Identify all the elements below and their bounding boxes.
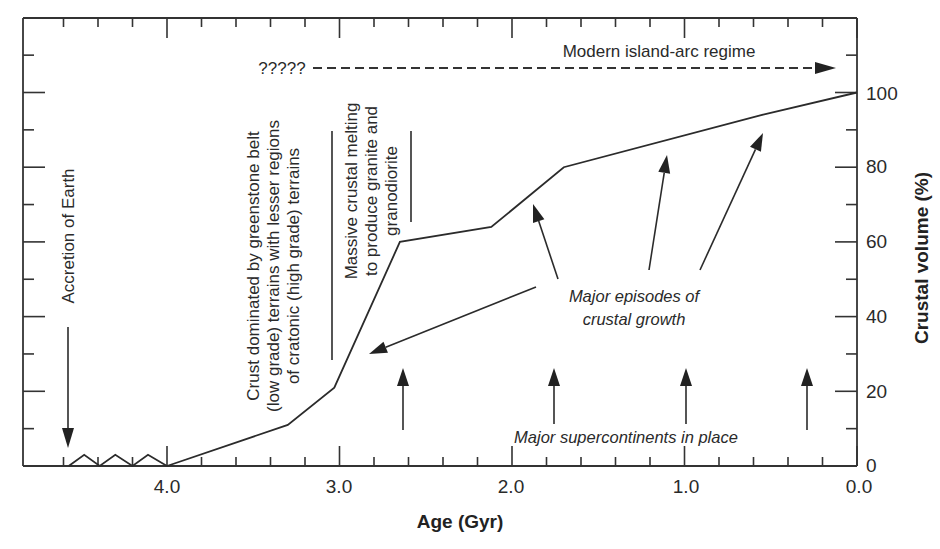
note-line: Massive crustal melting — [342, 103, 361, 280]
y-tick-labels: 0 20 40 60 80 100 — [866, 83, 898, 476]
x-tick-label: 3.0 — [326, 476, 352, 497]
supercontinents-label: Major supercontinents in place — [514, 428, 738, 446]
note-line: of cratonic (high grade) terrains — [284, 148, 303, 384]
note-line: Crust dominated by greenstone belt — [244, 131, 263, 401]
early-earth-zigzag — [69, 455, 167, 466]
crust-dominated-note: Crust dominated by greenstone belt (low … — [244, 120, 303, 412]
unknown-label: ????? — [258, 59, 305, 78]
accretion-annotation: Accretion of Earth — [59, 168, 78, 448]
x-tick-label: 2.0 — [498, 476, 524, 497]
arrow-head-icon — [658, 155, 670, 174]
axis-ticks — [23, 18, 857, 466]
growth-arrow-shaft — [539, 221, 558, 279]
x-axis-title: Age (Gyr) — [417, 511, 504, 532]
y-axis-title: Crustal volume (%) — [911, 172, 932, 344]
massive-melting-note: Massive crustal melting to produce grani… — [332, 103, 411, 360]
growth-arrow-shaft — [700, 149, 755, 270]
note-line: granodiorite — [382, 146, 401, 236]
x-tick-labels: 4.0 3.0 2.0 1.0 0.0 — [154, 476, 872, 497]
modern-regime-annotation: ????? Modern island-arc regime — [258, 42, 836, 78]
note-line: (low grade) terrains with lesser regions — [264, 120, 283, 412]
arrow-head-icon — [533, 204, 544, 223]
arrow-head-icon — [369, 342, 388, 354]
accretion-label: Accretion of Earth — [59, 168, 78, 303]
arrow-head-icon — [548, 368, 560, 386]
y-tick-label: 40 — [866, 306, 887, 327]
growth-label-line: Major episodes of — [569, 287, 702, 305]
modern-regime-label: Modern island-arc regime — [563, 42, 756, 61]
chart-canvas: 4.0 3.0 2.0 1.0 0.0 0 20 40 60 80 100 Ag… — [0, 0, 940, 549]
arrow-head-icon — [750, 133, 763, 152]
growth-arrow-shaft — [386, 287, 536, 347]
x-tick-label: 1.0 — [673, 476, 699, 497]
growth-arrow-shaft — [649, 173, 664, 270]
y-tick-label: 60 — [866, 231, 887, 252]
x-tick-label: 0.0 — [846, 476, 872, 497]
y-tick-label: 0 — [866, 455, 877, 476]
growth-label-line: crustal growth — [583, 310, 686, 328]
arrow-head-icon — [680, 368, 692, 386]
note-line: to produce granite and — [362, 106, 381, 276]
supercontinents-annotation: Major supercontinents in place — [397, 368, 813, 446]
arrow-head-icon — [397, 368, 409, 386]
y-tick-label: 20 — [866, 381, 887, 402]
arrow-right-icon — [815, 62, 836, 74]
y-tick-label: 80 — [866, 156, 887, 177]
arrow-head-icon — [801, 368, 813, 386]
plot-frame — [23, 18, 857, 466]
arrow-down-icon — [62, 428, 74, 448]
y-tick-label: 100 — [866, 83, 898, 104]
x-tick-label: 4.0 — [154, 476, 180, 497]
